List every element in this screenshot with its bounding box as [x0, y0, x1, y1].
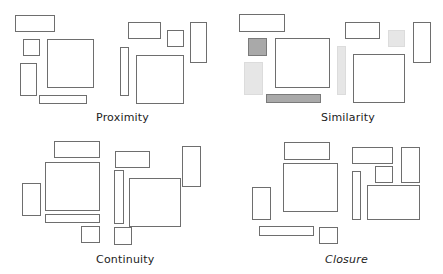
continuity-big-right: [129, 178, 181, 227]
closure-tall-right: [401, 147, 420, 183]
continuity-tall-right: [182, 146, 201, 187]
proximity-rect-top: [15, 15, 55, 32]
proximity-big-square: [47, 39, 94, 88]
proximity-big-square-right: [136, 55, 184, 104]
similarity-rect-right-top: [345, 22, 380, 39]
closure-rect-top: [284, 142, 330, 160]
similarity-tall-right: [413, 22, 431, 63]
similarity-light-tall: [244, 62, 263, 95]
closure-label: Closure: [325, 253, 368, 266]
closure-thin-tall: [352, 171, 361, 220]
similarity-label: Similarity: [321, 111, 375, 124]
continuity-bar: [45, 214, 100, 223]
continuity-big-square: [45, 162, 100, 211]
continuity-rect-top: [54, 141, 100, 158]
closure-bar: [259, 226, 314, 236]
closure-small-square-right: [375, 166, 393, 183]
continuity-left-tall: [22, 183, 41, 216]
continuity-thin-tall: [114, 170, 124, 224]
proximity-small-square-right: [167, 30, 184, 47]
similarity-dark-square: [248, 38, 267, 56]
closure-left-tall: [252, 187, 271, 220]
similarity-rect-top: [239, 14, 285, 32]
similarity-big-right: [353, 54, 405, 103]
continuity-small-square-right: [114, 227, 132, 245]
similarity-big-rect: [275, 38, 330, 88]
proximity-label: Proximity: [96, 111, 149, 124]
continuity-label: Continuity: [96, 253, 155, 266]
continuity-small-square: [81, 226, 100, 243]
proximity-rect-right-top: [128, 22, 161, 39]
similarity-light-square: [388, 30, 405, 47]
continuity-rect-right-top: [115, 151, 150, 168]
proximity-thin-tall: [120, 47, 129, 96]
closure-big-square: [283, 163, 338, 212]
proximity-bottom-bar: [39, 95, 87, 104]
similarity-dark-bar: [266, 94, 321, 103]
proximity-tall-rect: [20, 63, 37, 96]
proximity-small-square: [23, 39, 40, 56]
closure-big-right: [367, 185, 420, 220]
similarity-light-thin: [337, 46, 346, 95]
closure-small-square: [319, 227, 338, 244]
closure-rect-right-top: [352, 147, 393, 164]
proximity-tall-right: [190, 22, 207, 63]
